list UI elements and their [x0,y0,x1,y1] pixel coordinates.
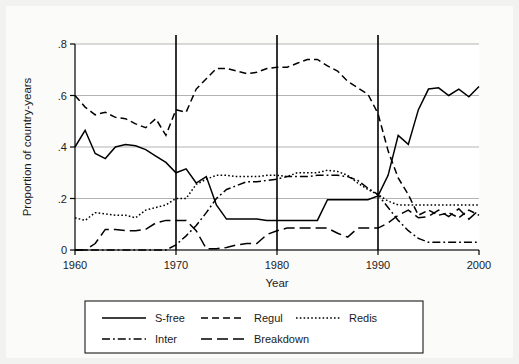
y-tick-label: .6 [58,90,67,102]
y-tick-label: .8 [58,38,67,50]
legend-box [85,301,423,353]
legend-label-breakdown: Breakdown [254,333,309,345]
legend-label-inter: Inter [155,333,177,345]
x-tick-label: 1980 [265,259,289,271]
x-tick-label: 1990 [366,259,390,271]
line-chart: 0.2.4.6.8 19601970198019902000 Proportio… [6,6,513,358]
legend-label-redis: Redis [349,312,378,324]
chart-figure: 0.2.4.6.8 19601970198019902000 Proportio… [6,6,513,358]
y-axis-title: Proportion of country-years [21,77,33,216]
y-tick-label: 0 [61,244,67,256]
x-axis-title: Year [265,277,288,289]
y-tick-label: .4 [58,141,67,153]
legend-label-regul: Regul [254,312,283,324]
x-tick-label: 2000 [467,259,491,271]
y-tick-label: .2 [58,193,67,205]
x-tick-label: 1970 [164,259,188,271]
x-tick-label: 1960 [63,259,87,271]
screenshot-root: 0.2.4.6.8 19601970198019902000 Proportio… [0,0,519,364]
legend-label-s-free: S-free [155,312,185,324]
